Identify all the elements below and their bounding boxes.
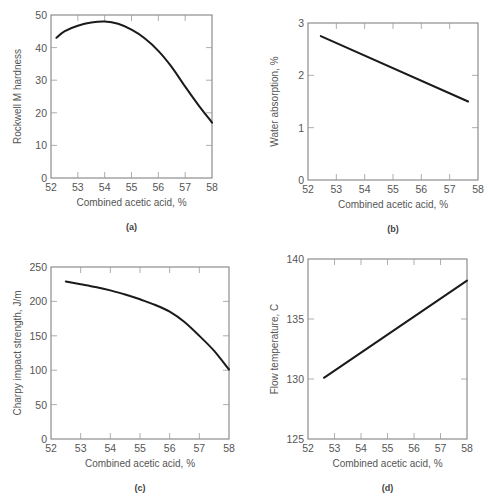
x-tick-label: 56: [152, 181, 164, 193]
panel-label: (c): [135, 483, 146, 493]
y-tick-label: 30: [35, 74, 47, 86]
y-tick-label: 130: [286, 373, 304, 385]
x-tick-label: 56: [415, 183, 427, 195]
data-curve: [321, 36, 468, 101]
y-axis-label: Rockwell M hardness: [12, 49, 23, 144]
x-tick-label: 56: [164, 442, 176, 454]
chart-panel-a: 5253545556575801020304050Combined acetic…: [12, 9, 218, 232]
x-tick-label: 57: [444, 183, 456, 195]
y-tick-label: 200: [29, 295, 47, 307]
y-tick-label: 0: [41, 433, 47, 445]
x-tick-label: 55: [134, 442, 146, 454]
plot-frame: [308, 259, 467, 439]
x-axis-label: Combined acetic acid, %: [338, 199, 448, 210]
y-tick-label: 0: [41, 172, 47, 184]
y-tick-label: 40: [35, 42, 47, 54]
x-tick-label: 53: [329, 442, 341, 454]
x-tick-label: 53: [75, 442, 87, 454]
y-tick-label: 250: [29, 261, 47, 273]
x-tick-label: 55: [387, 183, 399, 195]
x-axis-label: Combined acetic acid, %: [332, 458, 442, 469]
panel-label: (a): [126, 222, 137, 232]
chart-panel-d: 52535455565758125130135140Combined aceti…: [269, 253, 473, 493]
x-tick-label: 57: [193, 442, 205, 454]
y-axis-label: Flow temperature, C: [269, 304, 280, 395]
x-tick-label: 55: [126, 181, 138, 193]
x-tick-label: 54: [359, 183, 371, 195]
x-tick-label: 57: [179, 181, 191, 193]
y-tick-label: 3: [298, 17, 304, 29]
x-axis-label: Combined acetic acid, %: [85, 458, 195, 469]
x-tick-label: 55: [382, 442, 394, 454]
data-curve: [324, 281, 467, 378]
x-tick-label: 56: [408, 442, 420, 454]
x-tick-label: 58: [461, 442, 473, 454]
data-curve: [66, 281, 229, 369]
y-tick-label: 125: [286, 433, 304, 445]
x-tick-label: 58: [472, 183, 484, 195]
chart-panel-c: 52535455565758050100150200250Combined ac…: [12, 261, 235, 493]
data-curve: [56, 21, 212, 122]
y-tick-label: 20: [35, 107, 47, 119]
x-tick-label: 54: [104, 442, 116, 454]
figure-canvas: 5253545556575801020304050Combined acetic…: [0, 0, 494, 501]
y-tick-label: 50: [35, 9, 47, 21]
y-tick-label: 135: [286, 313, 304, 325]
x-axis-label: Combined acetic acid, %: [76, 197, 186, 208]
chart-panel-b: 525354555657580123Combined acetic acid, …: [269, 17, 484, 234]
x-tick-label: 53: [330, 183, 342, 195]
y-axis-label: Charpy impact strength, J/m: [12, 290, 23, 415]
y-axis-label: Water absorption, %: [269, 56, 280, 146]
panel-label: (b): [387, 224, 399, 234]
y-tick-label: 10: [35, 139, 47, 151]
plot-frame: [51, 15, 212, 178]
x-tick-label: 58: [206, 181, 218, 193]
plot-frame: [51, 267, 229, 439]
x-tick-label: 54: [355, 442, 367, 454]
y-tick-label: 2: [298, 69, 304, 81]
x-tick-label: 53: [72, 181, 84, 193]
x-tick-label: 57: [435, 442, 447, 454]
x-tick-label: 58: [223, 442, 235, 454]
y-tick-label: 1: [298, 122, 304, 134]
y-tick-label: 100: [29, 364, 47, 376]
y-tick-label: 0: [298, 174, 304, 186]
x-tick-label: 54: [99, 181, 111, 193]
plot-frame: [308, 23, 478, 180]
y-tick-label: 150: [29, 330, 47, 342]
panel-label: (d): [382, 483, 394, 493]
y-tick-label: 50: [35, 399, 47, 411]
y-tick-label: 140: [286, 253, 304, 265]
